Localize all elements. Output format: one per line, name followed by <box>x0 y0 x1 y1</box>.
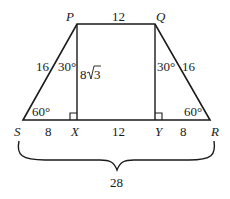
vertex-label-r: R <box>210 124 219 139</box>
length-label-sx: 8 <box>45 124 52 139</box>
angle-label-qry: 60° <box>184 104 202 119</box>
right-angle-mark-y <box>155 113 162 120</box>
length-label-qr: 16 <box>182 59 196 74</box>
length-label-ps: 16 <box>36 59 50 74</box>
curly-brace-icon <box>18 141 214 170</box>
total-length-label: 28 <box>110 175 123 190</box>
vertex-label-y: Y <box>155 124 164 139</box>
vertex-label-p: P <box>65 9 74 24</box>
angle-label-psx: 60° <box>32 104 50 119</box>
svg-text:3: 3 <box>94 67 101 82</box>
svg-text:8: 8 <box>80 67 87 82</box>
length-label-yr: 8 <box>180 124 187 139</box>
vertex-label-x: X <box>70 124 80 139</box>
length-label-xy: 12 <box>112 124 125 139</box>
vertex-label-s: S <box>14 124 21 139</box>
angle-label-yqr: 30° <box>157 59 175 74</box>
length-label-px: 8 3 <box>80 66 101 82</box>
vertex-label-q: Q <box>156 9 166 24</box>
right-angle-mark-x <box>70 113 77 120</box>
length-label-pq: 12 <box>112 9 125 24</box>
trapezoid-diagram: P Q S X Y R 12 16 16 8 3 8 12 8 30° 30° … <box>0 0 230 199</box>
angle-label-spx: 30° <box>58 59 76 74</box>
